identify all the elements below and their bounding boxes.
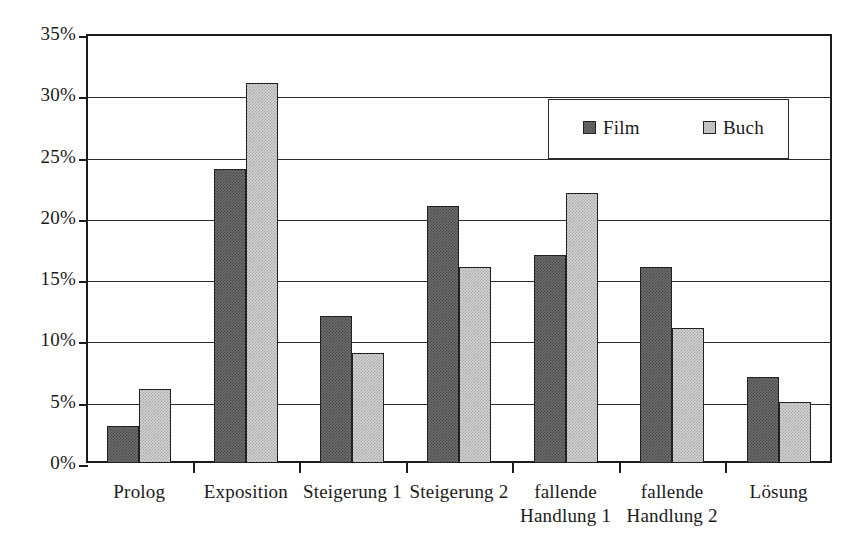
legend-label-buch: Buch — [723, 118, 764, 137]
x-axis-tick-mark — [619, 463, 621, 473]
bar-film-5 — [640, 267, 672, 463]
legend-entry-film: Film — [583, 118, 640, 137]
x-axis-category-label: Steigerung 1 — [299, 480, 406, 504]
x-axis-tick-mark — [193, 463, 195, 473]
legend-swatch-buch-icon — [703, 121, 716, 134]
bar-film-4 — [534, 255, 566, 463]
bar-film-2 — [320, 316, 352, 463]
y-axis-tick-label: 15% — [6, 269, 76, 288]
y-axis-tick-label: 0% — [6, 453, 76, 472]
x-axis-category-label: fallende Handlung 2 — [619, 480, 726, 528]
x-axis-tick-mark — [725, 463, 727, 473]
bar-buch-2 — [352, 353, 384, 463]
x-axis-category-label: Steigerung 2 — [406, 480, 513, 504]
x-axis-category-label: Prolog — [86, 480, 193, 504]
legend-label-film: Film — [603, 118, 640, 137]
bar-film-1 — [214, 169, 246, 463]
bar-buch-3 — [459, 267, 491, 463]
x-axis-tick-mark — [299, 463, 301, 473]
bar-buch-4 — [566, 193, 598, 463]
bar-buch-1 — [246, 83, 278, 463]
bar-buch-0 — [139, 389, 171, 463]
bar-buch-6 — [779, 402, 811, 463]
bar-film-6 — [747, 377, 779, 463]
bar-film-3 — [427, 206, 459, 463]
x-axis-category-label: Lösung — [725, 480, 832, 504]
x-axis-category-label: fallende Handlung 1 — [512, 480, 619, 528]
legend-swatch-film-icon — [583, 121, 596, 134]
bar-film-0 — [107, 426, 139, 463]
bar-buch-5 — [672, 328, 704, 463]
x-axis-category-label: Exposition — [193, 480, 300, 504]
y-axis-tick-label: 30% — [6, 85, 76, 104]
y-axis-tick-label: 20% — [6, 208, 76, 227]
y-axis-tick-label: 10% — [6, 330, 76, 349]
y-axis-tick-mark — [79, 465, 88, 467]
legend-entry-buch: Buch — [703, 118, 764, 137]
y-axis-tick-label: 5% — [6, 392, 76, 411]
y-axis-tick-label: 25% — [6, 147, 76, 166]
chart-legend: Film Buch — [548, 99, 789, 159]
y-axis-tick-label: 35% — [6, 24, 76, 43]
x-axis-tick-mark — [406, 463, 408, 473]
bar-chart-figure: 0%5%10%15%20%25%30%35% PrologExpositionS… — [0, 0, 864, 543]
x-axis-tick-mark — [512, 463, 514, 473]
